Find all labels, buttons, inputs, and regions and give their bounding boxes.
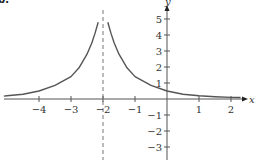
- x-tick-label: 1: [196, 104, 202, 115]
- y-tick-label: 4: [156, 30, 162, 41]
- y-axis-label: y: [164, 0, 171, 7]
- axes: [4, 5, 248, 160]
- x-axis-arrow-icon: [242, 97, 248, 102]
- y-tick-label: 2: [156, 62, 162, 73]
- curve: [4, 22, 241, 97]
- curve-left-branch: [4, 22, 98, 96]
- chart: b. −4−3−2−112−3−2−112345 x y: [0, 0, 258, 160]
- curve-right-branch: [108, 22, 241, 97]
- y-tick-label: 3: [156, 46, 162, 57]
- y-tick-label: −2: [147, 126, 162, 137]
- panel-label: b.: [0, 0, 9, 5]
- y-tick-label: 5: [156, 14, 162, 25]
- y-tick-label: −1: [147, 110, 162, 121]
- x-axis-label: x: [249, 94, 255, 105]
- tick-marks: −4−3−2−112−3−2−112345: [32, 14, 235, 153]
- x-tick-label: 2: [228, 104, 234, 115]
- x-tick-label: −2: [96, 104, 111, 115]
- x-tick-label: −4: [32, 104, 47, 115]
- y-tick-label: −3: [147, 142, 162, 153]
- x-tick-label: −1: [128, 104, 143, 115]
- x-tick-label: −3: [64, 104, 79, 115]
